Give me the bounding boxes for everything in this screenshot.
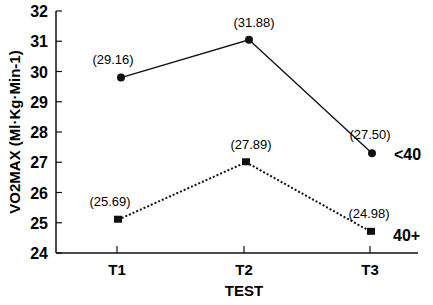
y-tick-label: 32 [30,3,48,20]
data-label: (27.50) [349,127,390,142]
series-line-1 [118,162,371,232]
y-tick-label: 29 [30,94,48,111]
y-tick-label: 25 [30,215,48,232]
x-tick-label: T2 [235,261,253,278]
circle-marker [368,149,376,157]
series-name: 40+ [393,227,420,244]
y-tick-label: 30 [30,64,48,81]
y-tick-label: 27 [30,154,48,171]
data-label: (25.69) [89,194,130,209]
x-axis-title: TEST [225,282,263,299]
square-marker [242,158,250,165]
square-marker [114,216,122,223]
square-marker [367,228,375,235]
y-tick-label: 28 [30,124,48,141]
x-tick-label: T1 [108,261,126,278]
series-name: <40 [394,146,421,163]
data-label: (29.16) [92,52,133,67]
data-label: (31.88) [233,15,274,30]
x-tick-label: T3 [361,261,379,278]
y-axis-title: VO2MAX (Ml·Kg·Min-1) [6,50,23,213]
series-line-0 [121,40,372,153]
circle-marker [245,36,253,44]
y-tick-label: 26 [30,185,48,202]
y-tick-label: 24 [30,245,48,262]
data-label: (27.89) [230,137,271,152]
y-tick-label: 31 [30,33,48,50]
circle-marker [117,74,125,82]
data-label: (24.98) [348,206,389,221]
line-chart: 242526272829303132T1T2T3TESTVO2MAX (Ml·K… [0,0,433,305]
